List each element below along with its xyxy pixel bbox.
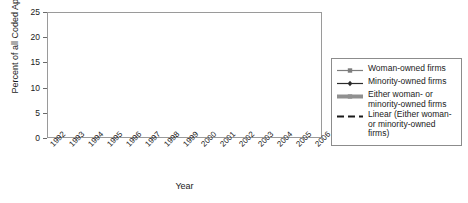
legend-label: Woman-owned firms (368, 64, 446, 74)
legend-item[interactable]: Minority-owned firms (336, 77, 457, 89)
y-tick-label: 0 (35, 134, 40, 143)
y-tick-label: 15 (31, 58, 40, 67)
y-tick-mark (43, 138, 47, 139)
legend-label: Either woman- or minority-owned firms (368, 90, 457, 109)
y-tick-label: 5 (35, 109, 40, 118)
legend-label: Linear (Either woman- or minority-owned … (368, 110, 457, 139)
square-glyph (348, 94, 352, 98)
legend-item[interactable]: Linear (Either woman- or minority-owned … (336, 110, 457, 139)
legend-item[interactable]: Woman-owned firms (336, 64, 457, 76)
thick-line-marker-icon (336, 91, 364, 102)
x-axis-tick-labels: 1992199319941995199619971998199920002001… (47, 140, 322, 178)
diamond-line-marker-icon (336, 78, 364, 89)
square-glyph (348, 68, 352, 72)
diamond-glyph (348, 81, 353, 87)
plot-area (47, 12, 322, 138)
y-tick-label: 20 (31, 33, 40, 42)
plot-frame (47, 12, 322, 138)
chart-legend: Woman-owned firmsMinority-owned firmsEit… (331, 58, 462, 146)
y-axis: 0510152025 (0, 0, 47, 140)
y-tick-label: 10 (31, 83, 40, 92)
square-line-marker-icon (336, 65, 364, 76)
dashed-line-marker-icon (336, 111, 364, 122)
chart-figure: Percent of all Coded Applications 051015… (0, 0, 468, 203)
legend-label: Minority-owned firms (368, 77, 446, 87)
legend-item[interactable]: Either woman- or minority-owned firms (336, 90, 457, 109)
x-axis-title: Year (47, 182, 322, 191)
y-tick-label: 25 (31, 8, 40, 17)
